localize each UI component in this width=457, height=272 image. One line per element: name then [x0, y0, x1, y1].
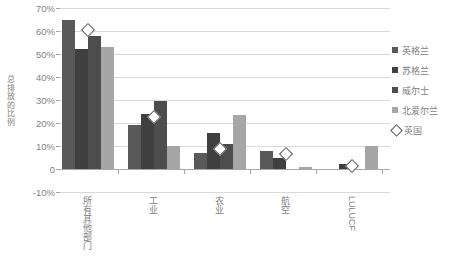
y-axis-tick-label: 60% [36, 26, 55, 37]
y-axis-tick-label: 20% [36, 118, 55, 129]
bar [101, 47, 114, 169]
y-axis-tickmark [56, 100, 60, 101]
y-axis-title: 总排放的比例 [0, 0, 20, 200]
x-axis-tickmark [382, 169, 383, 174]
legend-item[interactable]: 英格兰 [392, 40, 457, 60]
bar-chart: 总排放的比例 -10%010%20%30%40%50%60%70% 所有其他部门… [0, 0, 457, 272]
bar-group [128, 8, 180, 192]
legend-item[interactable]: 苏格兰 [392, 60, 457, 80]
y-axis-tick-label: -10% [33, 187, 55, 198]
y-axis-tickmark [56, 123, 60, 124]
bar [75, 49, 88, 169]
legend-label: 英国 [404, 124, 422, 137]
legend-square-icon [392, 107, 398, 113]
x-axis-tick-labels: 所有其他部门工业农业航空LULUCF [60, 196, 390, 272]
x-axis-category-label: 农业 [213, 196, 226, 216]
bar [299, 167, 312, 169]
y-axis-tick-labels: -10%010%20%30%40%50%60%70% [18, 0, 58, 200]
gridline [60, 192, 390, 193]
y-axis-tick-label: 10% [36, 141, 55, 152]
legend-label: 苏格兰 [402, 64, 429, 77]
y-axis-tick-label: 0 [50, 164, 55, 175]
y-axis-tick-label: 70% [36, 3, 55, 14]
y-axis-tick-label: 50% [36, 49, 55, 60]
y-axis-tickmark [56, 77, 60, 78]
legend-square-icon [392, 87, 398, 93]
bar [128, 125, 141, 169]
legend-label: 北爱尔兰 [402, 104, 438, 117]
x-axis-tickmark [316, 169, 317, 174]
y-axis-tick-label: 40% [36, 72, 55, 83]
y-axis-tickmark [56, 146, 60, 147]
x-axis-category-label: 航空 [279, 196, 292, 216]
legend-diamond-icon [390, 124, 403, 137]
y-axis-title-label: 总排放的比例 [5, 75, 16, 126]
legend-label: 威尔士 [402, 84, 429, 97]
x-axis-category-label: 所有其他部门 [81, 196, 94, 252]
bar [365, 146, 378, 169]
legend-square-icon [392, 47, 398, 53]
x-axis-category-label: LULUCF [347, 196, 357, 233]
y-axis-tickmark [56, 31, 60, 32]
bar [233, 115, 246, 169]
chart-legend: 英格兰苏格兰威尔士北爱尔兰英国 [392, 40, 457, 140]
legend-item[interactable]: 北爱尔兰 [392, 100, 457, 120]
bar [62, 20, 75, 170]
x-axis-tickmark [184, 169, 185, 174]
x-axis-category-label: 工业 [147, 196, 160, 216]
y-axis-tickmark [56, 192, 60, 193]
bar [167, 146, 180, 169]
legend-item[interactable]: 威尔士 [392, 80, 457, 100]
bar [194, 153, 207, 169]
bar [88, 36, 101, 169]
legend-label: 英格兰 [402, 44, 429, 57]
y-axis-tickmark [56, 169, 60, 170]
y-axis-tickmark [56, 54, 60, 55]
x-axis-tickmark [118, 169, 119, 174]
bar-group [260, 8, 312, 192]
legend-item[interactable]: 英国 [392, 120, 457, 140]
plot-area [60, 8, 390, 192]
legend-square-icon [392, 67, 398, 73]
bar-group [194, 8, 246, 192]
x-axis-tickmark [250, 169, 251, 174]
y-axis-tickmark [56, 8, 60, 9]
y-axis-tick-label: 30% [36, 95, 55, 106]
bar [260, 151, 273, 169]
